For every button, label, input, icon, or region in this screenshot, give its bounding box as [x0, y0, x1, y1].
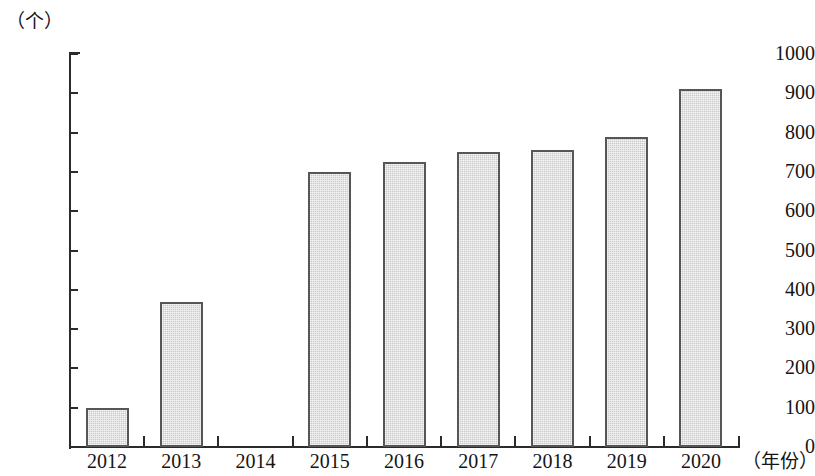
- bar: [679, 89, 722, 447]
- x-axis-tick: [143, 436, 145, 447]
- bar: [160, 302, 203, 447]
- y-axis-tick: [69, 132, 78, 134]
- y-axis-tick-label: 200: [753, 357, 815, 377]
- bar: [86, 408, 129, 447]
- x-axis-tick-label: 2018: [516, 450, 588, 472]
- y-axis-unit-label: （个）: [6, 6, 63, 33]
- y-axis-tick: [69, 250, 78, 252]
- y-axis-tick-label: 500: [753, 240, 815, 260]
- y-axis-tick: [69, 407, 78, 409]
- y-axis-tick: [69, 328, 78, 330]
- y-axis-tick-label: 1000: [753, 43, 815, 63]
- bar-chart: （个） （年份） 0100200300400500600700800900100…: [0, 0, 815, 476]
- x-axis-tick: [514, 436, 516, 447]
- x-axis-tick: [217, 436, 219, 447]
- y-axis-tick-label: 600: [753, 200, 815, 220]
- x-axis-tick-label: 2014: [220, 450, 292, 472]
- y-axis-tick-label: 400: [753, 279, 815, 299]
- y-axis-tick: [69, 53, 78, 55]
- x-axis-tick: [292, 436, 294, 447]
- y-axis-tick: [69, 171, 78, 173]
- y-axis-tick: [69, 289, 78, 291]
- x-axis-tick-label: 2020: [665, 450, 737, 472]
- y-axis-tick-label: 700: [753, 161, 815, 181]
- y-axis-tick: [69, 446, 78, 448]
- bar: [383, 162, 426, 447]
- y-axis-tick: [69, 210, 78, 212]
- x-axis-tick: [589, 436, 591, 447]
- x-axis-tick-label: 2012: [71, 450, 143, 472]
- y-axis-tick: [69, 92, 78, 94]
- x-axis-tick: [366, 436, 368, 447]
- y-axis-tick-label: 900: [753, 82, 815, 102]
- y-axis-tick-label: 100: [753, 397, 815, 417]
- x-axis-tick-label: 2013: [145, 450, 217, 472]
- bar: [531, 150, 574, 447]
- y-axis-tick: [69, 367, 78, 369]
- x-axis-end-cap: [738, 436, 740, 447]
- y-axis-tick-label: 0: [753, 436, 815, 456]
- y-axis-tick-label: 800: [753, 122, 815, 142]
- x-axis-tick-label: 2019: [591, 450, 663, 472]
- y-axis-tick-label: 300: [753, 318, 815, 338]
- x-axis-tick-label: 2015: [294, 450, 366, 472]
- x-axis-tick: [663, 436, 665, 447]
- x-axis-tick-label: 2016: [368, 450, 440, 472]
- bar: [457, 152, 500, 447]
- x-axis-tick: [440, 436, 442, 447]
- x-axis-tick-label: 2017: [442, 450, 514, 472]
- bar: [308, 172, 351, 447]
- bar: [605, 137, 648, 447]
